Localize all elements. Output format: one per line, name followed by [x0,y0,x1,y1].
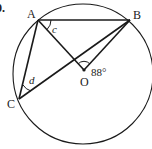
label-o: O [80,75,89,89]
center-point-o [82,68,85,71]
segment-bo [84,20,130,70]
angle-arc-o [78,61,90,64]
label-c: C [7,97,15,111]
question-number: 0. [0,1,5,15]
label-a: A [27,7,36,21]
angle-label-d: d [29,74,35,86]
label-b: B [133,8,141,22]
segment-ao [38,20,84,70]
angle-label-88: 88° [91,66,106,78]
circle-geometry-diagram: 0. A B C O c d 88° [0,0,152,149]
angle-arc-c [47,20,51,30]
angle-label-c: c [52,23,57,35]
